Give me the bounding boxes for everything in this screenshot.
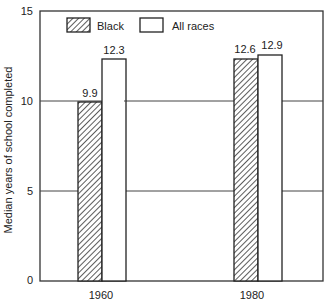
legend-swatch-black	[67, 18, 90, 32]
bar-group-1960: 9.9 12.3	[78, 44, 126, 281]
xtick-1960: 1960	[89, 289, 113, 301]
ytick-0: 0	[27, 274, 33, 286]
bar-1960-all-races	[102, 59, 126, 281]
bar-1980-all-races	[258, 55, 282, 281]
y-axis-label: Median years of school completed	[2, 67, 14, 234]
bar-1980-black	[234, 59, 258, 281]
bar-chart: 15 10 5 0 Median years of school complet…	[0, 0, 329, 307]
bar-label-1980-all-races: 12.9	[261, 39, 282, 51]
bar-label-1980-black: 12.6	[234, 43, 255, 55]
ytick-10: 10	[21, 95, 33, 107]
bar-label-1960-black: 9.9	[82, 87, 97, 99]
ytick-5: 5	[27, 185, 33, 197]
ytick-15: 15	[21, 5, 33, 17]
xtick-1980: 1980	[240, 289, 264, 301]
bar-group-1980: 12.6 12.9	[234, 39, 283, 281]
legend-label-black: Black	[97, 20, 124, 32]
legend-swatch-all-races	[140, 18, 163, 32]
legend: Black All races	[67, 18, 215, 32]
bar-1960-black	[78, 102, 102, 281]
legend-label-all-races: All races	[172, 20, 215, 32]
bar-label-1960-all-races: 12.3	[103, 44, 124, 56]
